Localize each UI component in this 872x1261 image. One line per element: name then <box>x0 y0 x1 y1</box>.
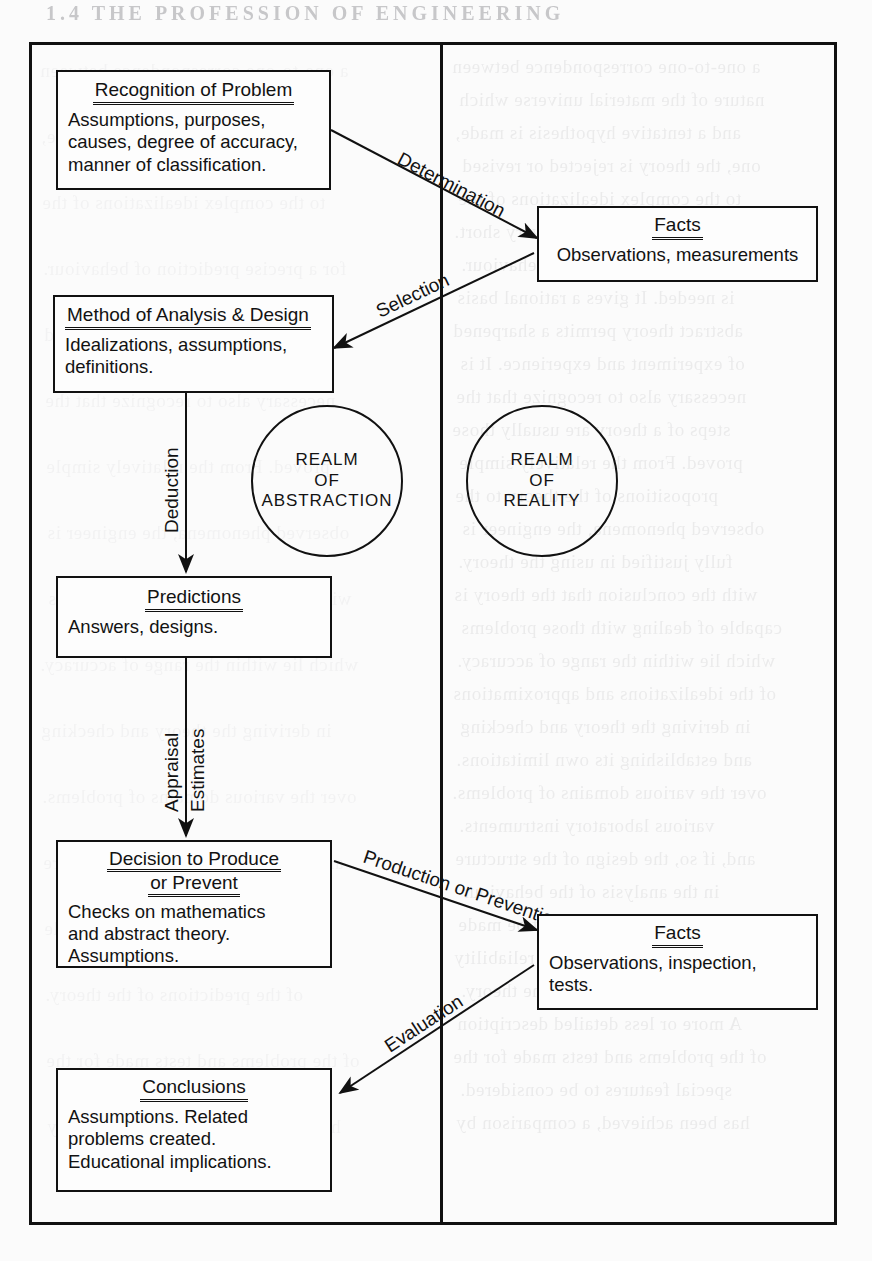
node-title: Conclusions <box>140 1076 248 1098</box>
node-body-line: causes, degree of accuracy, <box>68 131 319 153</box>
node-title: Facts <box>652 214 702 236</box>
node-title: Predictions <box>145 586 243 608</box>
node-body-line: Educational implications. <box>68 1151 320 1173</box>
node-body-line: manner of classification. <box>68 154 319 176</box>
node-body-line: Checks on mathematics <box>68 901 320 923</box>
node-body-line: problems created. <box>68 1128 320 1150</box>
node-body-line: Idealizations, assumptions, <box>65 334 322 356</box>
realm-label-line: OF <box>503 471 580 492</box>
node-title-underline: Predictions <box>145 586 243 612</box>
node-title-second-line: or Prevent <box>148 872 240 896</box>
node-title-underline: Recognition of Problem <box>93 79 295 105</box>
realm-label-line: OF <box>262 471 393 492</box>
realm-label-line: REALM <box>262 450 393 471</box>
realm-divider-line <box>440 45 443 1222</box>
node-body-line: tests. <box>549 974 806 996</box>
node-body: Checks on mathematics and abstract theor… <box>68 901 320 968</box>
node-title-underline: Decision to Produce <box>68 848 320 872</box>
node-body-line: Assumptions. Related <box>68 1106 320 1128</box>
node-method-of-analysis[interactable]: Method of Analysis & Design Idealization… <box>53 295 334 393</box>
realm-of-reality-circle: REALM OF REALITY <box>466 405 618 557</box>
realm-of-abstraction-circle: REALM OF ABSTRACTION <box>251 405 403 557</box>
node-conclusions[interactable]: Conclusions Assumptions. Related problem… <box>56 1068 332 1192</box>
node-body-line: Assumptions. <box>68 945 320 967</box>
node-body-line: definitions. <box>65 356 322 378</box>
node-body-line: Observations, measurements <box>549 244 806 266</box>
node-body: Assumptions, purposes, causes, degree of… <box>68 109 319 176</box>
node-body: Observations, inspection, tests. <box>549 952 806 996</box>
node-facts-lower[interactable]: Facts Observations, inspection, tests. <box>537 914 818 1010</box>
node-title-underline: Facts <box>652 922 702 948</box>
node-title-underline: Conclusions <box>140 1076 248 1102</box>
node-body: Answers, designs. <box>68 616 320 638</box>
node-title: Decision to Produce <box>107 848 281 872</box>
realm-label: REALM OF REALITY <box>503 450 580 512</box>
realm-label-line: REALM <box>503 450 580 471</box>
realm-label: REALM OF ABSTRACTION <box>262 450 393 512</box>
node-body: Assumptions. Related problems created. E… <box>68 1106 320 1173</box>
node-body-line: Observations, inspection, <box>549 952 806 974</box>
node-title-underline: Facts <box>652 214 702 240</box>
node-body-line: and abstract theory. <box>68 923 320 945</box>
node-title: Recognition of Problem <box>93 79 295 101</box>
node-title: Method of Analysis & Design <box>65 304 311 326</box>
node-body: Idealizations, assumptions, definitions. <box>65 334 322 378</box>
realm-label-line: REALITY <box>503 491 580 512</box>
node-body-line: Assumptions, purposes, <box>68 109 319 131</box>
realm-label-line: ABSTRACTION <box>262 491 393 512</box>
node-title: Facts <box>652 922 702 944</box>
page-running-header: 1.4 THE PROFESSION OF ENGINEERING <box>46 2 564 25</box>
node-body: Observations, measurements <box>549 244 806 266</box>
node-facts-upper[interactable]: Facts Observations, measurements <box>537 206 818 282</box>
node-title-underline: Method of Analysis & Design <box>65 304 311 330</box>
node-decision-to-produce[interactable]: Decision to Produce or Prevent Checks on… <box>56 840 332 968</box>
node-title-underline-second: or Prevent <box>68 872 320 896</box>
node-recognition-of-problem[interactable]: Recognition of Problem Assumptions, purp… <box>56 70 331 190</box>
node-body-line: Answers, designs. <box>68 616 320 638</box>
scanned-page: a one-to-one correspondence betweennatur… <box>0 0 872 1261</box>
node-predictions[interactable]: Predictions Answers, designs. <box>56 576 332 658</box>
